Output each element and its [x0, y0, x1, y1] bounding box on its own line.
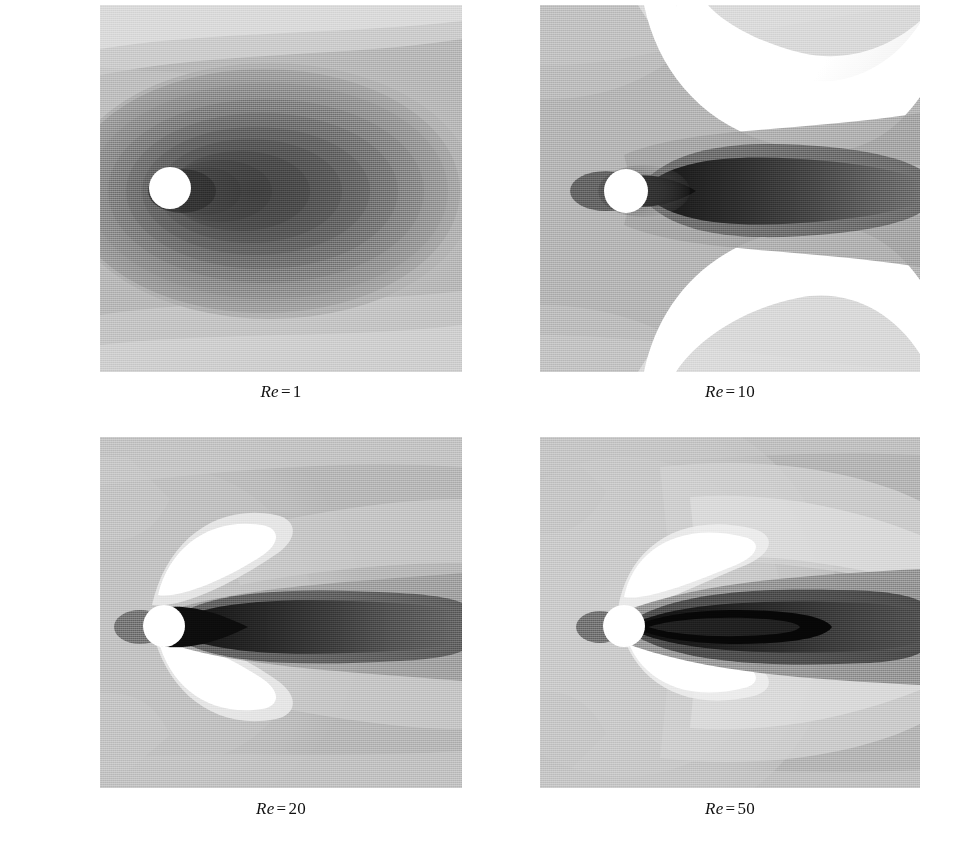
caption-re-50: Re=50	[540, 799, 920, 819]
contour-plot-re-50	[540, 437, 920, 788]
caption-variable: Re	[260, 382, 279, 401]
cylinder-disk	[149, 167, 191, 209]
cylinder-disk	[143, 605, 185, 647]
panel-re-20	[100, 437, 462, 788]
panel-re-1	[100, 5, 462, 372]
contour-field-re-20	[100, 437, 462, 788]
contour-band-bottom	[100, 751, 462, 788]
caption-operator: =	[275, 799, 289, 818]
caption-value: 1	[293, 382, 302, 401]
caption-value: 50	[737, 799, 755, 818]
contour-field-re-50	[540, 437, 920, 788]
caption-operator: =	[279, 382, 293, 401]
caption-variable: Re	[256, 799, 275, 818]
caption-value: 10	[737, 382, 755, 401]
cylinder-disk	[604, 169, 648, 213]
contour-field-re-10	[540, 5, 920, 372]
panel-re-10	[540, 5, 920, 372]
caption-operator: =	[724, 382, 738, 401]
caption-re-1: Re=1	[100, 382, 462, 402]
cylinder-disk	[603, 605, 645, 647]
caption-variable: Re	[705, 382, 724, 401]
contour-plot-re-1	[100, 5, 462, 372]
contour-field-re-1	[100, 5, 462, 372]
contour-plot-re-20	[100, 437, 462, 788]
caption-re-20: Re=20	[100, 799, 462, 819]
caption-operator: =	[724, 799, 738, 818]
contour-plot-re-10	[540, 5, 920, 372]
caption-variable: Re	[705, 799, 724, 818]
caption-re-10: Re=10	[540, 382, 920, 402]
panel-re-50	[540, 437, 920, 788]
caption-value: 20	[288, 799, 306, 818]
figure-panel-grid: Re=1	[0, 0, 960, 843]
